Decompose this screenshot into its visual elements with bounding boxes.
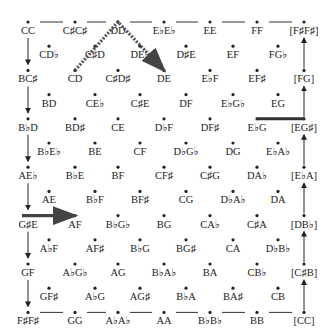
node-label: DA♭ bbox=[247, 170, 267, 181]
lattice-node: [E♭A] bbox=[291, 166, 317, 182]
lattice-node: BF♯ bbox=[131, 190, 149, 206]
node-label: BF bbox=[112, 170, 125, 181]
lattice-node: CC bbox=[21, 20, 35, 36]
lattice-node: E♭E♭ bbox=[153, 20, 176, 36]
node-label: E♭F bbox=[201, 73, 218, 84]
node-label: B♭A♭ bbox=[152, 267, 177, 278]
lattice-node: GF bbox=[21, 262, 35, 278]
node-label: AF bbox=[68, 219, 82, 230]
node-label: C♯D♯ bbox=[105, 73, 130, 84]
node-label: DF♯ bbox=[201, 122, 220, 133]
node-dot bbox=[47, 45, 50, 48]
node-label: BD♯ bbox=[65, 122, 85, 133]
lattice-node: B♭F bbox=[86, 190, 104, 206]
lattice-node: A♭G bbox=[85, 287, 106, 303]
lattice-node: CD bbox=[68, 69, 83, 85]
node-label: C♯C♯ bbox=[63, 25, 88, 36]
node-label: GF♯ bbox=[40, 291, 59, 302]
node-label: EF bbox=[227, 49, 239, 60]
lattice-node: [DB♭] bbox=[291, 214, 318, 230]
node-dot bbox=[184, 93, 187, 96]
lattice-node: BB bbox=[250, 311, 264, 327]
node-label: AE bbox=[42, 194, 56, 205]
lattice-node: CD♭ bbox=[39, 45, 59, 61]
node-label: CE♭ bbox=[86, 98, 104, 109]
node-dot bbox=[162, 214, 165, 217]
node-label: AE♭ bbox=[19, 170, 38, 181]
node-label: B♭B♭ bbox=[198, 315, 222, 326]
node-dot bbox=[255, 69, 258, 72]
node-label: EG bbox=[271, 98, 285, 109]
node-dot bbox=[302, 20, 305, 23]
lattice-node: D♭G♭ bbox=[173, 141, 198, 157]
node-dot bbox=[116, 69, 119, 72]
node-dot bbox=[255, 311, 258, 314]
node-label: C♯E bbox=[131, 98, 150, 109]
node-label: DA bbox=[270, 194, 286, 205]
node-dot bbox=[162, 20, 165, 23]
node-dot bbox=[26, 117, 29, 120]
lattice-node: BA♯ bbox=[223, 287, 243, 303]
node-dot bbox=[138, 141, 141, 144]
node-label: B♭G bbox=[130, 243, 150, 254]
lattice-node: DA♭ bbox=[247, 166, 267, 182]
node-label: BG♯ bbox=[176, 243, 196, 254]
lattice-node: GF♯ bbox=[40, 287, 59, 303]
node-dot bbox=[276, 190, 279, 193]
node-label: B♭A bbox=[176, 291, 196, 302]
node-label: CF♯ bbox=[155, 170, 173, 181]
lattice-node: DG bbox=[225, 141, 241, 157]
node-dot bbox=[184, 45, 187, 48]
node-label: A♭A♭ bbox=[105, 315, 130, 326]
node-dot bbox=[116, 166, 119, 169]
node-label: AG bbox=[110, 267, 126, 278]
node-label: DE bbox=[157, 73, 171, 84]
node-dot bbox=[162, 311, 165, 314]
node-label: CD bbox=[68, 73, 83, 84]
node-dot bbox=[208, 262, 211, 265]
node-dot bbox=[276, 141, 279, 144]
lattice-node: CE bbox=[111, 117, 124, 133]
node-label: E♭G bbox=[248, 122, 267, 133]
node-label: B♭F bbox=[86, 194, 104, 205]
node-label: D♭F bbox=[155, 122, 174, 133]
node-dot bbox=[231, 141, 234, 144]
node-label: BE bbox=[88, 146, 101, 157]
lattice-node: D♯E bbox=[176, 45, 195, 61]
node-label: AF♯ bbox=[86, 243, 105, 254]
node-label: FG♭ bbox=[269, 49, 287, 60]
node-dot bbox=[255, 214, 258, 217]
node-label: GG bbox=[67, 315, 83, 326]
node-dot bbox=[184, 190, 187, 193]
node-dot bbox=[276, 45, 279, 48]
node-dot bbox=[116, 214, 119, 217]
lattice-node: EG bbox=[271, 93, 285, 109]
lattice-node: C♯E bbox=[131, 93, 150, 109]
node-dot bbox=[26, 262, 29, 265]
lattice-node: BF bbox=[112, 166, 125, 182]
node-label: F♯F♯ bbox=[17, 315, 39, 326]
node-dot bbox=[26, 166, 29, 169]
node-dot bbox=[302, 166, 305, 169]
node-dot bbox=[116, 117, 119, 120]
node-label: BG bbox=[157, 219, 172, 230]
node-dot bbox=[255, 166, 258, 169]
node-dot bbox=[208, 117, 211, 120]
node-dot bbox=[208, 214, 211, 217]
lattice-node: A♭F bbox=[40, 238, 59, 254]
lattice-node: E♭A♭ bbox=[266, 141, 290, 157]
node-label: [DB♭] bbox=[291, 219, 318, 230]
node-label: B♭E♭ bbox=[37, 146, 60, 157]
lattice-node: D♭B♭ bbox=[266, 238, 291, 254]
node-label: [C♯B] bbox=[291, 267, 317, 278]
lattice-node: DE bbox=[157, 69, 171, 85]
lattice-node: C♯C♯ bbox=[63, 20, 88, 36]
node-dot bbox=[231, 287, 234, 290]
lattice-node: FF bbox=[251, 20, 263, 36]
node-label: G♯E bbox=[18, 219, 37, 230]
node-dot bbox=[47, 141, 50, 144]
lattice-node: CE♭ bbox=[86, 93, 104, 109]
node-dot bbox=[162, 262, 165, 265]
node-dot bbox=[93, 141, 96, 144]
node-dot bbox=[26, 311, 29, 314]
